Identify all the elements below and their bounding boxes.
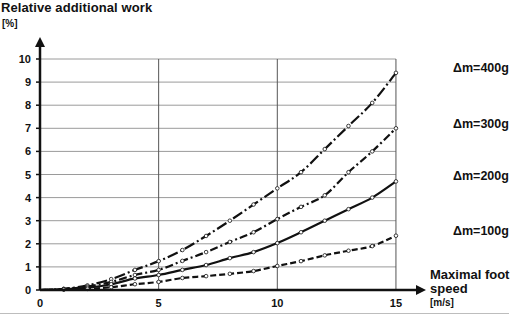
data-point-marker xyxy=(228,256,232,260)
data-point-marker xyxy=(347,207,351,211)
data-point-marker xyxy=(347,124,351,128)
data-point-marker xyxy=(133,273,137,277)
data-point-marker xyxy=(204,250,208,254)
data-point-marker xyxy=(394,180,398,184)
y-tick-label: 2 xyxy=(25,238,31,250)
data-point-marker xyxy=(347,170,351,174)
y-tick-label: 10 xyxy=(19,53,31,65)
data-point-marker xyxy=(370,150,374,154)
x-axis-title-text: Maximal foot speed xyxy=(430,268,510,296)
axis-ticks: 012345678910051015 xyxy=(19,53,402,309)
data-point-marker xyxy=(299,170,303,174)
data-point-marker xyxy=(370,244,374,248)
y-axis-arrow-icon xyxy=(35,37,45,47)
y-tick-label: 9 xyxy=(25,76,31,88)
y-tick-label: 5 xyxy=(25,169,31,181)
data-point-marker xyxy=(204,234,208,238)
x-tick-label: 10 xyxy=(271,297,283,309)
series-label-100g: Δm=100g xyxy=(453,224,509,238)
series-label-400g: Δm=400g xyxy=(453,61,509,75)
data-point-marker xyxy=(181,259,185,263)
x-axis-unit: [m/s] xyxy=(430,297,454,308)
data-point-marker xyxy=(157,273,161,277)
x-axis-title: Maximal foot speed xyxy=(430,268,510,296)
data-point-marker xyxy=(299,205,303,209)
data-point-marker xyxy=(276,241,280,245)
data-point-marker xyxy=(181,248,185,252)
data-point-marker xyxy=(299,230,303,234)
y-tick-label: 7 xyxy=(25,122,31,134)
data-point-marker xyxy=(347,249,351,253)
data-point-marker xyxy=(157,280,161,284)
y-tick-label: 1 xyxy=(25,261,31,273)
data-point-marker xyxy=(204,263,208,267)
data-point-marker xyxy=(276,217,280,221)
data-point-marker xyxy=(276,264,280,268)
data-point-marker xyxy=(228,240,232,244)
data-point-marker xyxy=(394,234,398,238)
data-point-marker xyxy=(133,277,137,281)
x-tick-label: 0 xyxy=(37,297,43,309)
data-point-marker xyxy=(133,282,137,286)
data-point-marker xyxy=(157,268,161,272)
data-point-marker xyxy=(228,272,232,276)
data-point-marker xyxy=(181,268,185,272)
data-point-marker xyxy=(109,285,113,289)
data-point-marker xyxy=(228,219,232,223)
data-point-marker xyxy=(323,193,327,197)
data-series xyxy=(40,71,398,291)
data-point-marker xyxy=(252,269,256,273)
series-label-200g: Δm=200g xyxy=(453,169,509,183)
data-point-marker xyxy=(276,187,280,191)
y-tick-label: 3 xyxy=(25,215,31,227)
data-point-marker xyxy=(370,101,374,105)
gridlines xyxy=(40,59,396,290)
data-point-marker xyxy=(181,276,185,280)
data-point-marker xyxy=(323,147,327,151)
data-point-marker xyxy=(370,196,374,200)
x-tick-label: 5 xyxy=(156,297,162,309)
data-point-marker xyxy=(252,230,256,234)
data-point-marker xyxy=(299,259,303,263)
data-point-marker xyxy=(252,250,256,254)
data-point-marker xyxy=(133,268,137,272)
data-point-marker xyxy=(323,254,327,258)
data-point-marker xyxy=(252,203,256,207)
series-line-300g xyxy=(40,128,396,290)
data-point-marker xyxy=(157,259,161,263)
y-tick-label: 4 xyxy=(25,192,32,204)
y-tick-label: 0 xyxy=(25,284,31,296)
x-axis-arrow-icon xyxy=(416,285,426,295)
divider xyxy=(0,313,509,314)
x-tick-label: 15 xyxy=(390,297,402,309)
data-point-marker xyxy=(394,127,398,131)
data-point-marker xyxy=(323,219,327,223)
series-label-300g: Δm=300g xyxy=(453,117,509,131)
y-tick-label: 6 xyxy=(25,145,31,157)
y-tick-label: 8 xyxy=(25,99,31,111)
data-point-marker xyxy=(204,274,208,278)
data-point-marker xyxy=(394,71,398,75)
